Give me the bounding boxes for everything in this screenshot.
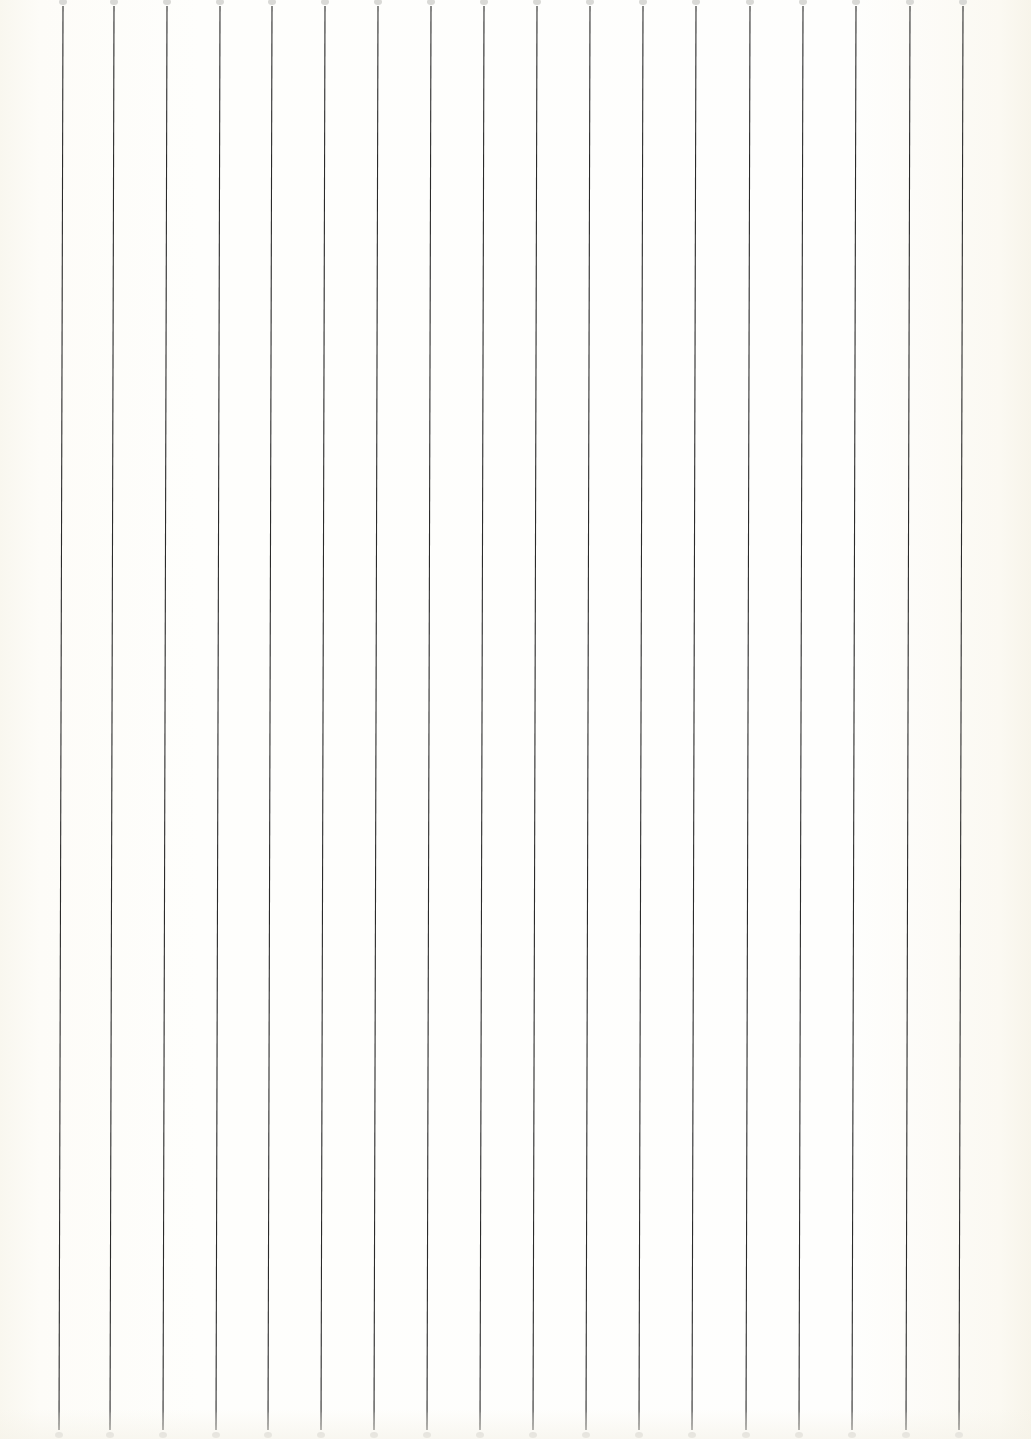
- line-end-dot-icon: [533, 0, 541, 5]
- line-end-dot-icon: [374, 0, 382, 5]
- line-end-dot-icon: [692, 0, 700, 5]
- ruled-line: [476, 0, 488, 1438]
- ruled-line: [106, 0, 118, 1438]
- ruled-line: [264, 0, 276, 1438]
- ruled-line: [742, 0, 754, 1438]
- line-end-dot-icon: [639, 0, 647, 5]
- ruled-line: [370, 0, 382, 1438]
- ruled-line: [212, 0, 224, 1438]
- rule-line: [268, 6, 272, 1430]
- rule-line: [110, 6, 114, 1430]
- line-end-dot-icon: [586, 0, 594, 5]
- rule-line: [746, 6, 750, 1430]
- line-end-dot-icon: [476, 1432, 484, 1438]
- line-end-dot-icon: [159, 1432, 167, 1438]
- ruled-line: [902, 0, 914, 1438]
- rule-line: [692, 6, 696, 1430]
- line-end-dot-icon: [795, 1432, 803, 1438]
- line-end-dot-icon: [110, 0, 118, 5]
- ruled-line: [529, 0, 541, 1438]
- line-end-dot-icon: [55, 1432, 63, 1438]
- ruled-line: [55, 0, 67, 1438]
- rule-line: [163, 6, 167, 1430]
- ruled-paper-page: [0, 0, 1031, 1439]
- rule-line: [852, 6, 856, 1430]
- ruled-line: [795, 0, 807, 1438]
- line-end-dot-icon: [906, 0, 914, 5]
- line-end-dot-icon: [427, 0, 435, 5]
- line-end-dot-icon: [370, 1432, 378, 1438]
- line-end-dot-icon: [799, 0, 807, 5]
- line-end-dot-icon: [848, 1432, 856, 1438]
- line-end-dot-icon: [529, 1432, 537, 1438]
- rule-line: [799, 6, 803, 1430]
- line-end-dot-icon: [852, 0, 860, 5]
- line-end-dot-icon: [321, 0, 329, 5]
- line-end-dot-icon: [902, 1432, 910, 1438]
- rule-line: [906, 6, 910, 1430]
- ruled-line: [955, 0, 967, 1438]
- rule-line: [427, 6, 431, 1430]
- ruled-line: [159, 0, 171, 1438]
- rule-line: [321, 6, 325, 1430]
- line-end-dot-icon: [746, 0, 754, 5]
- ruled-line: [848, 0, 860, 1438]
- rule-line: [533, 6, 537, 1430]
- line-end-dot-icon: [264, 1432, 272, 1438]
- rule-line: [480, 6, 484, 1430]
- rule-line: [586, 6, 590, 1430]
- line-end-dot-icon: [688, 1432, 696, 1438]
- line-end-dot-icon: [216, 0, 224, 5]
- ruled-line: [317, 0, 329, 1438]
- line-end-dot-icon: [742, 1432, 750, 1438]
- rule-line: [374, 6, 378, 1430]
- ruled-line: [688, 0, 700, 1438]
- line-end-dot-icon: [163, 0, 171, 5]
- ruled-line: [582, 0, 594, 1438]
- rule-line: [216, 6, 220, 1430]
- line-end-dot-icon: [635, 1432, 643, 1438]
- line-end-dot-icon: [423, 1432, 431, 1438]
- line-end-dot-icon: [212, 1432, 220, 1438]
- line-end-dot-icon: [959, 0, 967, 5]
- line-end-dot-icon: [582, 1432, 590, 1438]
- rule-line: [59, 6, 63, 1430]
- rule-line: [639, 6, 643, 1430]
- line-end-dot-icon: [59, 0, 67, 5]
- ruled-line: [635, 0, 647, 1438]
- rule-line: [959, 6, 963, 1430]
- line-end-dot-icon: [955, 1432, 963, 1438]
- vertical-rules: [0, 0, 1031, 1439]
- ruled-line: [423, 0, 435, 1438]
- line-end-dot-icon: [268, 0, 276, 5]
- line-end-dot-icon: [317, 1432, 325, 1438]
- line-end-dot-icon: [480, 0, 488, 5]
- line-end-dot-icon: [106, 1432, 114, 1438]
